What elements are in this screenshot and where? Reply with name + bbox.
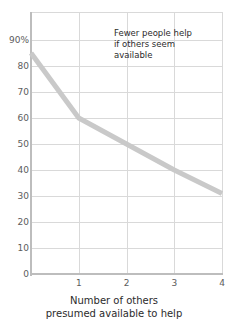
x-axis-tick-label: 2 — [117, 279, 137, 288]
chart-figure: 90%80706050403020100 1234 Fewer people h… — [0, 0, 228, 321]
y-axis-tick-label: 10 — [1, 244, 29, 253]
x-axis-line — [31, 273, 223, 275]
y-axis-tick-label: 80 — [1, 62, 29, 71]
x-axis-title-line-2: presumed available to help — [0, 307, 228, 320]
y-axis-tick-label: 40 — [1, 166, 29, 175]
y-axis-tick-label: 20 — [1, 218, 29, 227]
y-axis-line — [30, 12, 32, 276]
y-axis-tick-label: 30 — [1, 192, 29, 201]
x-axis-tick-label: 4 — [212, 279, 228, 288]
y-axis-tick-label: 90% — [1, 36, 29, 45]
gridline-vertical — [79, 13, 80, 274]
chart-annotation: Fewer people help if others seem availab… — [114, 28, 220, 61]
y-axis-tick-label: 50 — [1, 140, 29, 149]
annotation-line-1: Fewer people help — [114, 28, 220, 39]
x-axis-title-line-1: Number of others — [0, 294, 228, 307]
annotation-line-2: if others seem — [114, 39, 220, 50]
y-axis-tick-label: 0 — [1, 270, 29, 279]
plot-top-border — [31, 12, 223, 13]
y-axis-tick-label: 70 — [1, 88, 29, 97]
x-axis-title: Number of others presumed available to h… — [0, 294, 228, 320]
annotation-line-3: available — [114, 50, 220, 61]
x-axis-tick-label: 3 — [164, 279, 184, 288]
y-axis-tick-label: 60 — [1, 114, 29, 123]
gridline-vertical — [222, 13, 223, 274]
y-axis-tick-labels: 90%80706050403020100 — [0, 0, 29, 321]
x-axis-tick-labels: 1234 — [0, 279, 228, 291]
x-axis-tick-label: 1 — [69, 279, 89, 288]
